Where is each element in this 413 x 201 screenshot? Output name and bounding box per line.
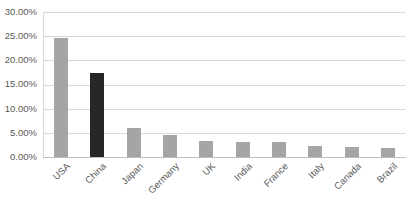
bar[interactable] <box>90 73 104 157</box>
y-axis-tick-label: 10.00% <box>0 104 37 114</box>
y-axis-tick-label: 5.00% <box>0 128 37 138</box>
bar[interactable] <box>272 142 286 157</box>
y-axis-tick-label: 20.00% <box>0 55 37 65</box>
bar[interactable] <box>236 142 250 157</box>
bar[interactable] <box>54 38 68 157</box>
bar[interactable] <box>163 135 177 157</box>
bar[interactable] <box>345 147 359 157</box>
bar-chart: 30.00% 25.00% 20.00% 15.00% 10.00% 5.00%… <box>0 0 413 201</box>
y-axis-tick-label: 0.00% <box>0 152 37 162</box>
bar-series <box>43 12 406 157</box>
bar[interactable] <box>381 148 395 157</box>
y-axis-tick-label: 15.00% <box>0 79 37 89</box>
y-axis-tick-label: 25.00% <box>0 31 37 41</box>
y-axis-tick-label: 30.00% <box>0 7 37 17</box>
plot-area <box>43 12 406 157</box>
x-axis-tick-labels: USAChinaJapanGermanyUKIndiaFranceItalyCa… <box>43 158 406 201</box>
bar[interactable] <box>127 128 141 157</box>
